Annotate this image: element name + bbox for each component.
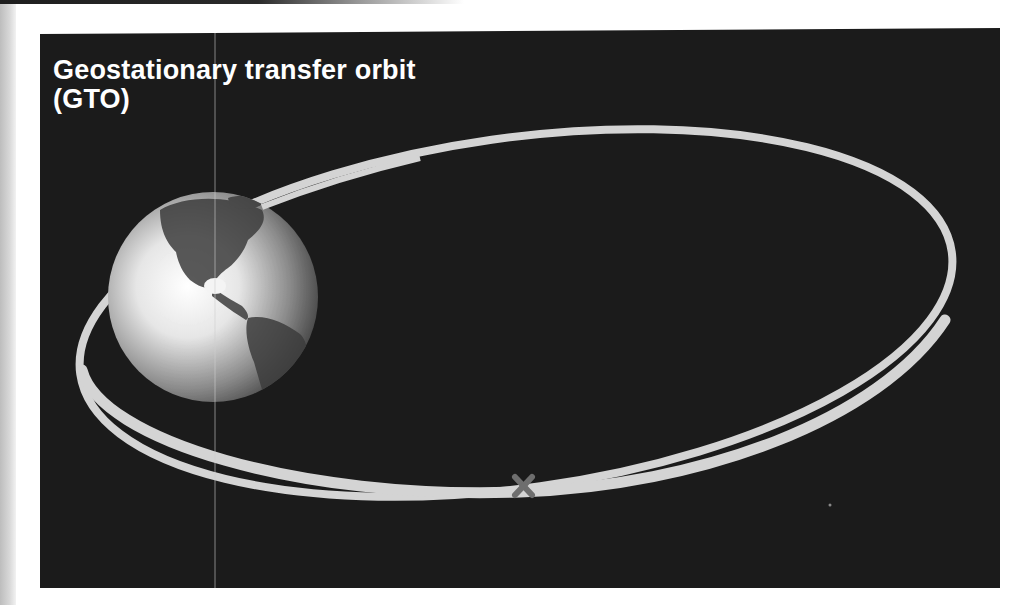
speck [829, 504, 832, 507]
title-line-2: (GTO) [53, 85, 416, 114]
earth-globe [108, 192, 318, 402]
orbit-front-segment [262, 158, 420, 207]
diagram-title: Geostationary transfer orbit (GTO) [53, 56, 416, 114]
title-line-1: Geostationary transfer orbit [53, 56, 416, 85]
